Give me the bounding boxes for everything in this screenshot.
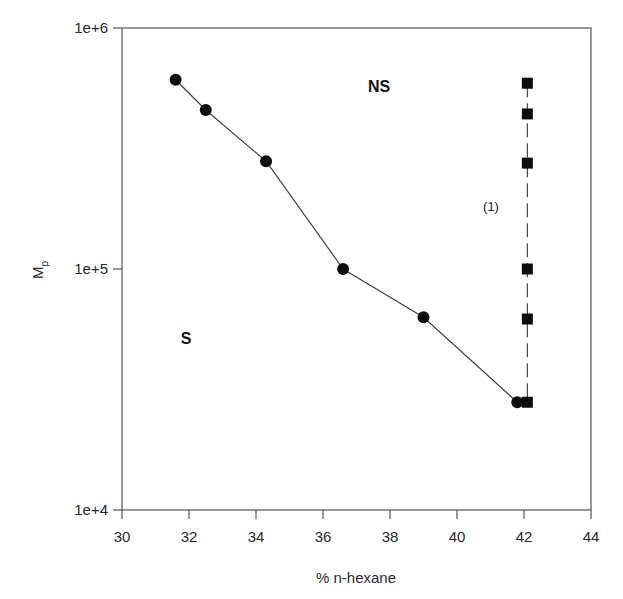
x-tick-label: 32 (181, 528, 198, 545)
series-annotation-1: (1) (483, 199, 499, 214)
data-point-square (522, 397, 533, 408)
x-tick-label: 44 (583, 528, 600, 545)
data-point-square (522, 264, 533, 275)
y-tick-label: 1e+6 (74, 19, 108, 36)
data-point-circle (337, 263, 349, 275)
x-tick-label: 40 (449, 528, 466, 545)
y-axis-ticks: 1e+41e+51e+6 (74, 19, 122, 518)
data-point-circle (511, 396, 523, 408)
data-point-square (522, 108, 533, 119)
data-point-circle (260, 155, 272, 167)
x-tick-label: 36 (315, 528, 332, 545)
x-tick-label: 42 (516, 528, 533, 545)
y-tick-label: 1e+4 (74, 501, 108, 518)
series-lines (176, 80, 528, 402)
x-tick-label: 34 (248, 528, 265, 545)
series-markers (170, 74, 533, 408)
data-point-square (522, 78, 533, 89)
data-point-circle (418, 311, 430, 323)
data-point-circle (200, 104, 212, 116)
region-label-ns: NS (368, 78, 391, 95)
x-tick-label: 38 (382, 528, 399, 545)
plot-frame (122, 28, 591, 510)
x-axis-title: % n-hexane (316, 569, 396, 586)
data-point-square (522, 158, 533, 169)
region-label-s: S (181, 330, 192, 347)
x-axis-ticks: 3032343638404244 (114, 510, 600, 545)
series-line (176, 80, 518, 402)
chart: 3032343638404244 1e+41e+51e+6 % n-hexane… (0, 0, 623, 599)
data-point-square (522, 314, 533, 325)
y-axis-title-sub: p (39, 261, 50, 267)
y-axis-title-main: M (29, 267, 46, 280)
y-tick-label: 1e+5 (74, 260, 108, 277)
x-tick-label: 30 (114, 528, 131, 545)
y-axis-title: Mp (29, 261, 50, 280)
data-point-circle (170, 74, 182, 86)
svg-text:Mp: Mp (29, 261, 50, 280)
